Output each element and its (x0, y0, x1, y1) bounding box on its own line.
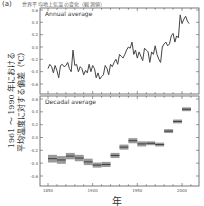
x-tick-label: 1900 (88, 188, 99, 193)
y-tick-label: 0.6 (32, 8, 39, 13)
y-tick-label: -0.2 (30, 148, 38, 153)
chart-canvas: -0.6-0.4-0.20.00.20.40.6Annual average -… (0, 0, 204, 206)
y-tick-label: 0.4 (32, 20, 39, 25)
y-tick-label: -0.2 (30, 57, 38, 62)
panel-title: Decadal average (45, 98, 96, 106)
annual-average-panel: -0.6-0.4-0.20.00.20.40.6Annual average (30, 8, 199, 95)
x-tick-label: 2000 (177, 188, 188, 193)
y-tick-label: 0.4 (32, 109, 39, 114)
plot-frame (40, 8, 199, 94)
panel-title: Annual average (45, 10, 93, 18)
y-tick-label: -0.6 (30, 82, 38, 87)
y-tick-label: 0.2 (32, 32, 39, 37)
annual-series-line (48, 15, 189, 79)
decadal-average-panel: -0.6-0.4-0.20.00.20.40.6Decadal average1… (30, 96, 199, 193)
x-tick-label: 1850 (43, 188, 54, 193)
y-tick-label: 0.6 (32, 97, 39, 102)
y-tick-label: -0.6 (30, 174, 38, 179)
x-tick-label: 1950 (132, 188, 143, 193)
y-tick-label: 0.0 (32, 45, 39, 50)
y-tick-label: -0.4 (30, 69, 38, 74)
plot-frame (40, 96, 199, 186)
y-tick-label: 0.2 (32, 122, 39, 127)
y-tick-label: 0.0 (32, 135, 39, 140)
y-tick-label: -0.4 (30, 161, 38, 166)
